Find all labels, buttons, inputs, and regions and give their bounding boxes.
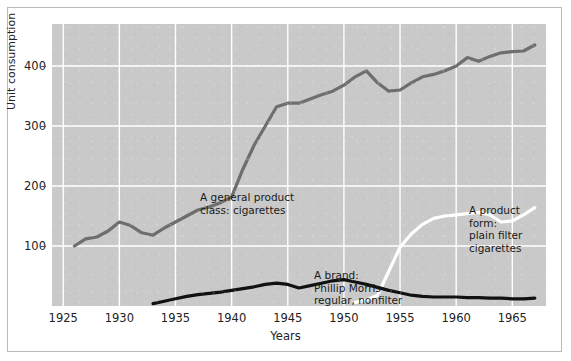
y-tick-label: 400 bbox=[6, 59, 46, 73]
annotation-brand: A brand: Phillip Morris regular, nonfilt… bbox=[314, 269, 402, 307]
x-tick-label: 1955 bbox=[385, 311, 414, 325]
y-tick-mark bbox=[41, 66, 46, 67]
y-tick-mark bbox=[41, 246, 46, 247]
x-tick-label: 1950 bbox=[329, 311, 358, 325]
y-axis-ticks: 100200300400 bbox=[0, 24, 46, 306]
y-tick-label: 300 bbox=[6, 119, 46, 133]
y-tick-label: 200 bbox=[6, 179, 46, 193]
chart-canvas bbox=[52, 24, 546, 306]
y-tick-label: 100 bbox=[6, 239, 46, 253]
x-tick-label: 1925 bbox=[49, 311, 78, 325]
y-tick-mark bbox=[41, 186, 46, 187]
annotation-product-form: A product form: plain filter cigarettes bbox=[469, 204, 546, 254]
x-tick-label: 1945 bbox=[273, 311, 302, 325]
y-tick-mark bbox=[41, 126, 46, 127]
x-tick-label: 1965 bbox=[498, 311, 527, 325]
x-tick-label: 1935 bbox=[161, 311, 190, 325]
x-axis-ticks: 192519301935194019451950195519601965 bbox=[52, 311, 546, 329]
plot-area: A general product class: cigarettes A br… bbox=[52, 24, 546, 306]
x-axis-label: Years bbox=[0, 329, 571, 343]
x-tick-label: 1940 bbox=[217, 311, 246, 325]
annotation-product-class: A general product class: cigarettes bbox=[200, 191, 294, 216]
figure: Unit consumption 100200300400 A general … bbox=[0, 0, 571, 361]
x-tick-label: 1960 bbox=[442, 311, 471, 325]
series-line-0 bbox=[74, 45, 534, 246]
x-tick-label: 1930 bbox=[105, 311, 134, 325]
